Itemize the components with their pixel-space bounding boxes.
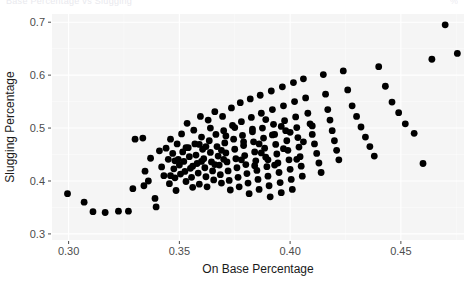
clipped-corner-text: %	[450, 0, 458, 6]
y-axis-title: Slugging Percentage	[3, 71, 17, 183]
y-tick-label-2: 0.5	[30, 122, 45, 134]
panel-background	[52, 14, 464, 240]
y-tick-label-4: 0.7	[30, 16, 45, 28]
y-tick-label-0: 0.3	[30, 228, 45, 240]
y-tick-label-3: 0.6	[30, 69, 45, 81]
scatter-plot: 0.300.350.400.45 0.30.40.50.60.7 On Base…	[0, 0, 464, 284]
x-axis-title: On Base Percentage	[202, 262, 314, 276]
x-tick-label-3: 0.45	[390, 245, 411, 257]
clipped-header-text: Base Percentage vs Slugging	[6, 0, 306, 6]
x-tick-label-2: 0.40	[279, 245, 300, 257]
x-tick-label-0: 0.30	[58, 245, 79, 257]
y-tick-label-1: 0.4	[30, 175, 45, 187]
chart-figure: Base Percentage vs Slugging % 0.300.350.…	[0, 0, 464, 284]
x-tick-label-1: 0.35	[169, 245, 190, 257]
